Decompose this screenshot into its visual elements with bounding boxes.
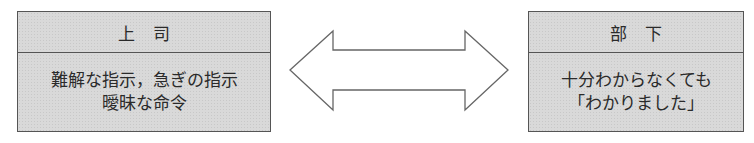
double-arrow-icon	[270, 20, 530, 120]
subordinate-box: 部下 十分わからなくても 「わかりました」	[528, 11, 744, 132]
boss-title: 上司	[18, 12, 270, 53]
boss-line-2: 曖昧な命令	[102, 92, 187, 115]
subordinate-title: 部下	[529, 12, 743, 53]
subordinate-line-1: 十分わからなくても	[561, 69, 712, 92]
boss-line-1: 難解な指示，急ぎの指示	[51, 69, 238, 92]
subordinate-line-2: 「わかりました」	[568, 92, 704, 115]
boss-box: 上司 難解な指示，急ぎの指示 曖昧な命令	[17, 11, 271, 132]
boss-description: 難解な指示，急ぎの指示 曖昧な命令	[18, 53, 270, 131]
subordinate-description: 十分わからなくても 「わかりました」	[529, 53, 743, 131]
